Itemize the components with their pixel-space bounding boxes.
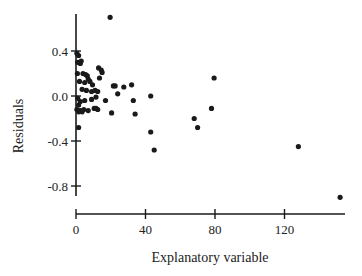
data-point	[76, 125, 81, 130]
data-point	[148, 129, 153, 134]
data-point	[195, 125, 200, 130]
data-point	[75, 71, 80, 76]
data-point	[338, 195, 343, 200]
data-point	[115, 91, 120, 96]
x-axis-label: Explanatory variable	[151, 250, 268, 265]
data-point	[89, 97, 94, 102]
data-point	[81, 107, 86, 112]
data-point	[121, 84, 126, 89]
data-points	[74, 15, 342, 200]
data-point	[212, 75, 217, 80]
data-point	[192, 116, 197, 121]
y-tick-label: -0.4	[47, 134, 68, 149]
y-axis-label: Residuals	[11, 99, 26, 153]
data-point	[82, 98, 87, 103]
y-tick-label: 0.0	[52, 89, 68, 104]
data-point	[103, 98, 108, 103]
y-axis: 0.40.0-0.4-0.8	[47, 14, 81, 196]
y-tick-label: 0.4	[52, 44, 69, 59]
y-tick-label: -0.8	[47, 179, 68, 194]
data-point	[97, 75, 102, 80]
data-point	[148, 93, 153, 98]
data-point	[95, 89, 100, 94]
data-point	[86, 108, 91, 113]
data-point	[296, 144, 301, 149]
data-point	[95, 107, 100, 112]
data-point	[113, 83, 118, 88]
data-point	[108, 15, 113, 20]
data-point	[209, 106, 214, 111]
data-point	[109, 110, 114, 115]
data-point	[152, 147, 157, 152]
data-point	[131, 98, 136, 103]
x-tick-label: 40	[139, 222, 152, 237]
data-point	[76, 102, 81, 107]
data-point	[133, 111, 138, 116]
data-point	[77, 79, 82, 84]
data-point	[79, 59, 84, 64]
residual-scatter-plot: 0.40.0-0.4-0.8 04080120 Explanatory vari…	[0, 0, 362, 276]
data-point	[76, 53, 81, 58]
x-tick-label: 120	[275, 222, 295, 237]
x-axis: 04080120	[73, 209, 345, 237]
data-point	[93, 95, 98, 100]
data-point	[90, 82, 95, 87]
data-point	[129, 82, 134, 87]
data-point	[84, 88, 89, 93]
x-tick-label: 80	[209, 222, 222, 237]
x-tick-label: 0	[73, 222, 80, 237]
data-point	[82, 80, 87, 85]
data-point	[100, 70, 105, 75]
